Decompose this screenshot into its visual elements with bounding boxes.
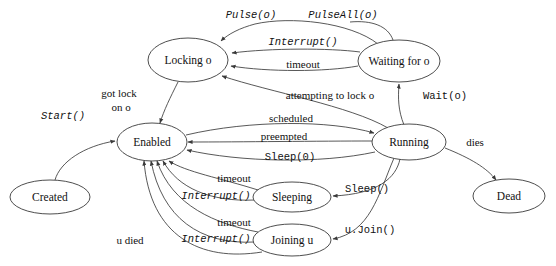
state-diagram: Created Enabled Locking o Waiting for o … [0, 0, 556, 266]
edge-label-u-died: u died [116, 234, 144, 246]
node-joining-u[interactable]: Joining u [253, 224, 331, 256]
edge-label-interrupt-joining: Interrupt() [181, 233, 250, 245]
edge-label-attempting-to-lock: attempting to lock o [286, 89, 375, 101]
edge-label-start: Start() [41, 110, 85, 122]
edge-wait-o [399, 84, 404, 125]
edge-label-sleep: Sleep() [345, 183, 389, 195]
edge-label-dies: dies [466, 136, 484, 148]
edge-pulseall [350, 22, 393, 40]
node-sleeping[interactable]: Sleeping [253, 182, 331, 212]
node-label-enabled: Enabled [133, 136, 171, 148]
node-dead[interactable]: Dead [473, 179, 545, 213]
edge-dies [445, 148, 496, 180]
node-label-created: Created [32, 191, 68, 203]
edge-label-got-lock: got lock [101, 87, 137, 99]
diagram-canvas: Created Enabled Locking o Waiting for o … [0, 0, 556, 266]
edge-label-on-o: on o [111, 101, 131, 113]
edge-label-u-join: u.Join() [345, 224, 395, 236]
edge-label-preempted: preempted [261, 130, 308, 142]
edge-label-wait-o: Wait(o) [423, 90, 467, 102]
edge-label-sleep-zero: Sleep(0) [265, 151, 315, 163]
node-label-joining-u: Joining u [271, 234, 314, 247]
edge-label-interrupt-sleeping: Interrupt() [181, 190, 250, 202]
edge-label-interrupt-waiting: Interrupt() [268, 36, 337, 48]
node-created[interactable]: Created [10, 180, 90, 214]
node-layer: Created Enabled Locking o Waiting for o … [10, 38, 545, 256]
node-locking-o[interactable]: Locking o [148, 38, 228, 82]
node-waiting-for-o[interactable]: Waiting for o [358, 40, 440, 82]
node-label-locking-o: Locking o [165, 54, 212, 67]
edge-label-timeout-joining: timeout [217, 216, 251, 228]
node-enabled[interactable]: Enabled [117, 123, 187, 161]
node-label-dead: Dead [497, 190, 522, 202]
node-label-waiting-for-o: Waiting for o [368, 55, 429, 68]
edge-start [55, 141, 115, 180]
edge-label-pulseall: PulseAll(o) [308, 9, 377, 21]
node-label-sleeping: Sleeping [272, 191, 312, 204]
edge-label-scheduled: scheduled [269, 112, 313, 124]
edge-label-timeout-waiting: timeout [286, 58, 320, 70]
edge-label-timeout-sleeping: timeout [217, 172, 251, 184]
edge-label-pulse: Pulse(o) [226, 9, 276, 21]
edge-interrupt-waiting [232, 49, 360, 53]
edge-got-lock-on-o [160, 82, 178, 123]
node-running[interactable]: Running [372, 124, 446, 160]
node-label-running: Running [389, 136, 429, 149]
